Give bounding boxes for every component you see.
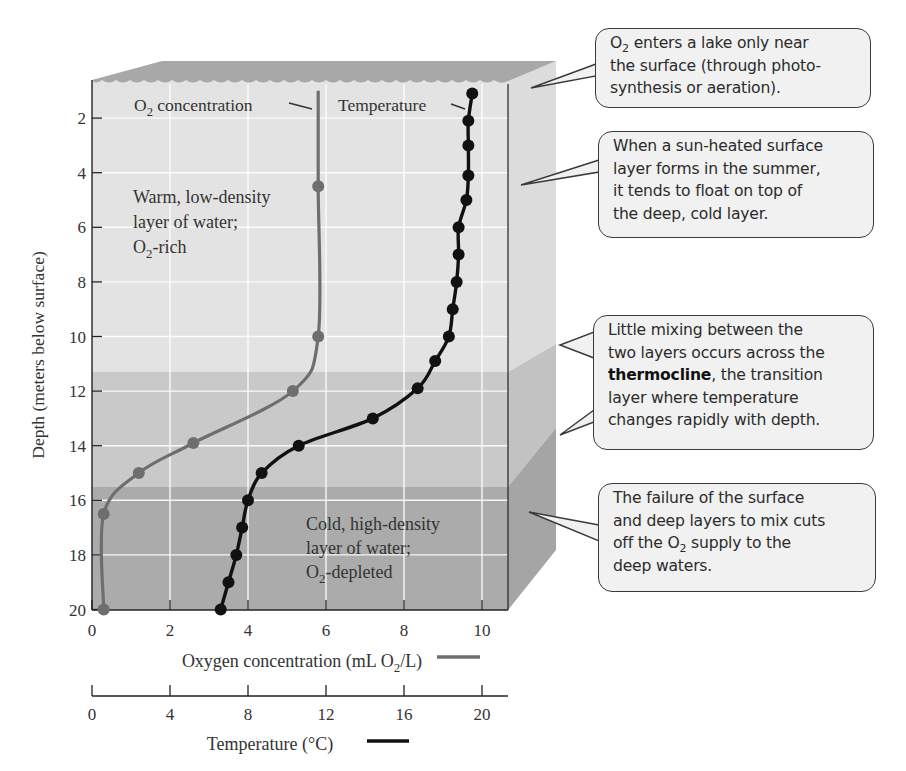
oxygen-data-point — [98, 508, 110, 520]
temperature-data-point — [236, 522, 248, 534]
callout-pointer — [560, 410, 594, 435]
callout-line: deep waters. — [613, 555, 865, 578]
oxygen-tick-label: 6 — [322, 621, 331, 640]
callout-line: layer forms in the summer, — [613, 158, 863, 181]
temperature-tick-label: 0 — [88, 705, 97, 724]
oxygen-tick-label: 0 — [88, 621, 97, 640]
warm-layer-label: layer of water; — [133, 212, 238, 232]
oxygen-data-point — [133, 467, 145, 479]
temperature-data-point — [412, 382, 424, 394]
y-tick-label: 16 — [69, 491, 86, 510]
y-tick-label: 12 — [69, 382, 86, 401]
oxygen-data-point — [187, 437, 199, 449]
temperature-tick-label: 8 — [244, 705, 253, 724]
water-surface — [92, 61, 556, 83]
callout-line: When a sun-heated surface — [613, 135, 863, 158]
oxygen-data-point — [287, 385, 299, 397]
temperature-tick-label: 16 — [396, 705, 413, 724]
temperature-data-point — [215, 604, 227, 616]
y-axis-title: Depth (meters below surface) — [28, 251, 48, 459]
layer-thermocline — [92, 372, 508, 487]
temperature-data-point — [293, 440, 305, 452]
y-tick-label: 8 — [78, 273, 87, 292]
temperature-series-label: Temperature — [338, 95, 426, 115]
y-tick-label: 20 — [69, 601, 86, 620]
temperature-tick-label: 12 — [318, 705, 335, 724]
water-surface-waves — [92, 61, 556, 83]
temperature-axis-title: Temperature (°C) — [207, 734, 333, 755]
cold-layer-label: Cold, high-density — [306, 514, 440, 534]
temperature-data-point — [453, 221, 465, 233]
callout-thermocline: Little mixing between thetwo layers occu… — [593, 315, 874, 450]
oxygen-data-point — [312, 180, 324, 192]
callout-line: changes rapidly with depth. — [608, 409, 863, 432]
callout-pointer — [560, 332, 594, 358]
oxygen-data-point — [98, 604, 110, 616]
callout-line: and deep layers to mix cuts — [613, 510, 865, 533]
temperature-tick-label: 20 — [474, 705, 491, 724]
lake-stratification-figure: 2468101214161820Depth (meters below surf… — [0, 0, 906, 771]
y-tick-label: 2 — [78, 109, 87, 128]
y-tick-label: 6 — [78, 218, 87, 237]
y-tick-label: 18 — [69, 546, 86, 565]
side-surface-layer — [508, 61, 556, 372]
callout-line: The failure of the surface — [613, 487, 865, 510]
callout-line: the deep, cold layer. — [613, 203, 863, 226]
callout-deep-layer: The failure of the surfaceand deep layer… — [598, 483, 876, 592]
temperature-data-point — [462, 169, 474, 181]
layer-deep-layer — [92, 487, 508, 610]
callout-line: the surface (through photo- — [610, 55, 860, 78]
oxygen-tick-label: 8 — [400, 621, 409, 640]
warm-layer-label: Warm, low-density — [133, 187, 271, 207]
cold-layer-label: layer of water; — [306, 538, 411, 558]
temperature-data-point — [451, 276, 463, 288]
temperature-data-point — [453, 249, 465, 261]
temperature-data-point — [460, 194, 472, 206]
oxygen-axis-title: Oxygen concentration (mL O2/L) — [182, 651, 422, 675]
temperature-data-point — [242, 494, 254, 506]
callout-surface-layer: When a sun-heated surfacelayer forms in … — [598, 131, 874, 238]
callout-line: two layers occurs across the — [608, 342, 863, 365]
callout-line: Little mixing between the — [608, 319, 863, 342]
callout-line: it tends to float on top of — [613, 180, 863, 203]
callout-line: layer where temperature — [608, 387, 863, 410]
callout-line: O2 enters a lake only near — [610, 32, 860, 55]
callout-line: off the O2 supply to the — [613, 532, 865, 555]
temperature-data-point — [443, 331, 455, 343]
y-tick-label: 14 — [69, 437, 87, 456]
temperature-data-point — [223, 576, 235, 588]
box-side-face — [508, 61, 556, 610]
oxygen-data-point — [312, 331, 324, 343]
temperature-data-point — [447, 303, 459, 315]
oxygen-tick-label: 10 — [474, 621, 491, 640]
temperature-data-point — [462, 115, 474, 127]
oxygen-tick-label: 2 — [166, 621, 175, 640]
temperature-tick-label: 4 — [166, 705, 175, 724]
y-tick-label: 4 — [78, 164, 87, 183]
temperature-data-point — [466, 88, 478, 100]
temperature-data-point — [429, 355, 441, 367]
callout-line: thermocline, the transition — [608, 364, 863, 387]
callout-surface-entry: O2 enters a lake only nearthe surface (t… — [595, 28, 871, 108]
temperature-data-point — [230, 549, 242, 561]
oxygen-tick-label: 4 — [244, 621, 253, 640]
callout-line: synthesis or aeration). — [610, 77, 860, 100]
y-tick-label: 10 — [69, 328, 86, 347]
temperature-data-point — [256, 467, 268, 479]
temperature-data-point — [462, 139, 474, 151]
temperature-data-point — [367, 412, 379, 424]
